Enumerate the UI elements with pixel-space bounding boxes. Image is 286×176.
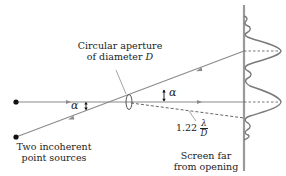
resolution-fraction: λ D [200,119,207,138]
aperture-label-line1: Circular aperture [70,40,170,51]
angle-label-right: α [169,87,176,98]
screen-label-line2: from opening [171,161,241,172]
sources-label-line2: point sources [12,152,96,163]
ray-bottom-source [16,51,244,137]
ray-arrow-icon [197,100,202,104]
resolution-coefficient: 1.22 [176,122,197,133]
source-dot-bottom [13,134,18,139]
diffraction-pattern [244,16,281,140]
sources-label-line1: Two incoherent [12,141,96,152]
aperture-label-text: of diameter [87,51,143,62]
aperture-diameter-symbol: D [146,51,154,62]
resolution-label: 1.22 λ D [176,119,208,138]
aperture-label-line2: of diameter D [70,51,170,62]
screen-label-line1: Screen far [171,150,241,161]
sources-label: Two incoherent point sources [12,141,96,163]
angle-arrowhead-icon [162,90,165,93]
screen-label: Screen far from opening [171,150,241,172]
source-dot-top [13,99,18,104]
angle-arrowhead-icon [162,99,165,102]
angle-label-left: α [71,100,78,111]
aperture-leader [116,70,126,94]
dashed-resolution-ray [131,103,244,118]
resolution-denominator: D [200,129,207,138]
aperture-label: Circular aperture of diameter D [70,40,170,62]
